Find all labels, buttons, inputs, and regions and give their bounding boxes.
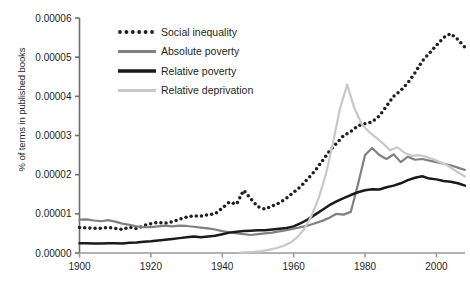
y-tick-label: 0.00005 — [35, 52, 72, 63]
legend-item-1: Absolute poverty — [118, 45, 240, 57]
y-tick-label: 0.00000 — [35, 248, 72, 259]
x-tick-label: 2000 — [425, 261, 448, 272]
y-axis-ticks: 0.000000.000010.000020.000030.000040.000… — [35, 13, 79, 259]
legend-label: Relative poverty — [161, 65, 237, 77]
chart-container: % of terms in published books 0.000000.0… — [0, 0, 470, 291]
legend-label: Relative deprivation — [161, 84, 253, 96]
y-tick-label: 0.00003 — [35, 130, 72, 141]
legend-label: Absolute poverty — [161, 45, 240, 57]
legend-label: Social inequality — [161, 26, 238, 38]
data-series-group — [78, 33, 466, 253]
series-line-0 — [78, 33, 466, 231]
chart-legend: Social inequalityAbsolute povertyRelativ… — [118, 26, 253, 97]
series-line-3 — [240, 85, 465, 253]
y-tick-label: 0.00004 — [35, 91, 72, 102]
x-tick-label: 1900 — [68, 261, 91, 272]
legend-item-0: Social inequality — [118, 26, 238, 38]
y-tick-label: 0.00002 — [35, 169, 72, 180]
y-tick-label: 0.00006 — [35, 13, 72, 24]
series-line-1 — [80, 148, 466, 235]
y-tick-label: 0.00001 — [35, 208, 72, 219]
legend-item-3: Relative deprivation — [118, 84, 253, 96]
x-tick-label: 1960 — [283, 261, 306, 272]
x-axis-ticks: 190019201940196019802000 — [68, 253, 448, 272]
legend-item-2: Relative poverty — [118, 65, 237, 77]
x-tick-label: 1980 — [354, 261, 377, 272]
x-tick-label: 1920 — [140, 261, 163, 272]
x-tick-label: 1940 — [211, 261, 234, 272]
chart-plot-area: 0.000000.000010.000020.000030.000040.000… — [0, 0, 470, 291]
axis-lines — [80, 18, 466, 253]
